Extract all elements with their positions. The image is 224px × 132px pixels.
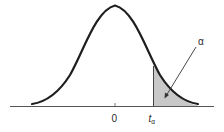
density-curve <box>32 6 198 105</box>
alpha-label: α <box>198 36 204 47</box>
alpha-pointer-arrow <box>166 47 196 96</box>
shaded-tail-area <box>154 66 199 106</box>
zero-label: 0 <box>112 113 118 124</box>
t-distribution-diagram: α 0 tα <box>0 0 224 132</box>
t-alpha-label: tα <box>149 113 156 125</box>
t-label-subscript: α <box>151 118 155 125</box>
